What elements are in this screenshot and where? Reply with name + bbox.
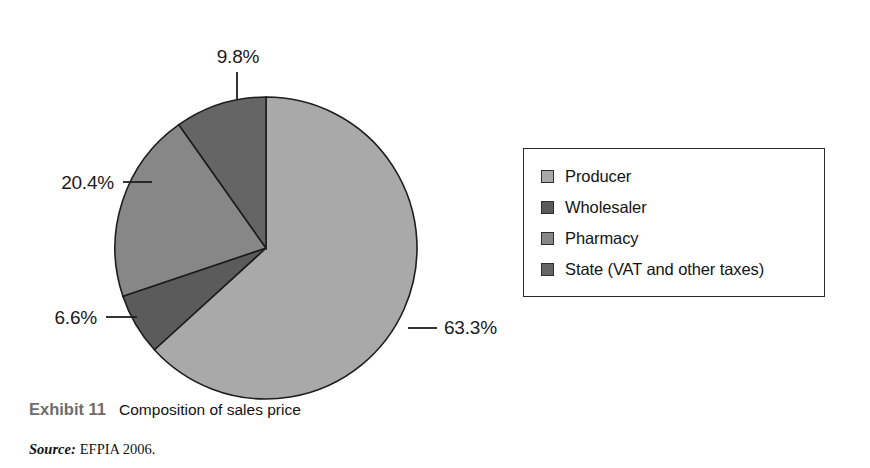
pie-chart-svg: 63.3%6.6%20.4%9.8% <box>0 0 500 420</box>
legend-swatch-icon <box>541 201 554 214</box>
legend-item[interactable]: Producer <box>541 161 824 192</box>
exhibit-caption: Exhibit 11 Composition of sales price <box>29 400 301 419</box>
legend-item-label: Wholesaler <box>565 198 647 217</box>
percentage-label-state: 9.8% <box>217 46 260 67</box>
exhibit-number: Exhibit 11 <box>29 400 106 419</box>
pie-slices <box>115 97 417 399</box>
exhibit-title: Composition of sales price <box>119 401 301 419</box>
legend-item-label: Producer <box>565 167 631 186</box>
chart-legend: ProducerWholesalerPharmacyState (VAT and… <box>523 148 825 297</box>
legend-swatch-icon <box>541 170 554 183</box>
source-label: Source: <box>29 441 76 457</box>
percentage-label-producer: 63.3% <box>444 317 497 338</box>
legend-item[interactable]: Pharmacy <box>541 223 824 254</box>
pie-chart-figure: 63.3%6.6%20.4%9.8% <box>0 0 500 420</box>
legend-item[interactable]: State (VAT and other taxes) <box>541 254 824 285</box>
legend-swatch-icon <box>541 232 554 245</box>
legend-item-label: State (VAT and other taxes) <box>565 260 764 279</box>
legend-item[interactable]: Wholesaler <box>541 192 824 223</box>
percentage-label-wholesaler: 6.6% <box>54 307 97 328</box>
source-text: EFPIA 2006. <box>80 441 156 457</box>
source-note: Source:EFPIA 2006. <box>29 441 155 458</box>
legend-swatch-icon <box>541 263 554 276</box>
percentage-label-pharmacy: 20.4% <box>61 172 114 193</box>
legend-item-label: Pharmacy <box>565 229 638 248</box>
